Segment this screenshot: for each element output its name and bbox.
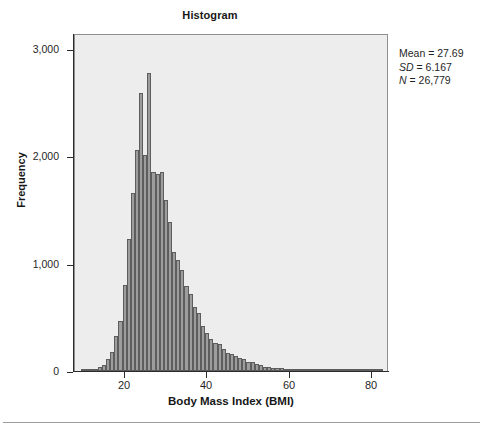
stat-mean-equals: = [428, 47, 437, 59]
stat-mean-label: Mean [399, 47, 425, 59]
x-axis-tick-label: 40 [186, 379, 226, 391]
y-axis-title: Frequency [15, 115, 27, 245]
x-axis-tick [124, 372, 125, 378]
stat-sd-label: SD [399, 61, 414, 73]
stat-sd: SD = 6.167 [399, 61, 483, 75]
histogram-bars [75, 35, 387, 371]
x-axis-tick-label: 60 [269, 379, 309, 391]
page-title: Histogram [0, 9, 420, 21]
y-axis-tick [67, 50, 73, 51]
footer-divider [3, 422, 480, 423]
stat-mean-value: 27.69 [437, 47, 463, 59]
y-axis-tick-label: 0 [11, 365, 59, 377]
stat-sd-value: 6.167 [426, 61, 452, 73]
x-axis-tick-label: 80 [351, 379, 391, 391]
y-axis-tick [67, 157, 73, 158]
stat-n-label: N [399, 74, 407, 86]
y-axis-tick-label: 1,000 [11, 258, 59, 270]
x-axis-tick [371, 372, 372, 378]
x-axis-title: Body Mass Index (BMI) [74, 395, 388, 407]
statistics-annotation: Mean = 27.69 SD = 6.167 N = 26,779 [399, 47, 483, 88]
plot-area [74, 34, 388, 372]
y-axis-tick-label: 3,000 [11, 43, 59, 55]
x-axis-tick [206, 372, 207, 378]
y-axis-tick [67, 372, 73, 373]
stat-sd-equals: = [417, 61, 426, 73]
y-axis-line [73, 34, 74, 372]
stat-mean: Mean = 27.69 [399, 47, 483, 61]
stat-n: N = 26,779 [399, 74, 483, 88]
stat-n-value: 26,779 [419, 74, 451, 86]
stat-n-equals: = [410, 74, 419, 86]
x-axis-tick [289, 372, 290, 378]
x-axis-tick-label: 20 [104, 379, 144, 391]
histogram-figure: Histogram 01,0002,0003,000 20406080 Freq… [0, 0, 483, 430]
x-axis-line [73, 371, 389, 372]
y-axis-tick [67, 265, 73, 266]
